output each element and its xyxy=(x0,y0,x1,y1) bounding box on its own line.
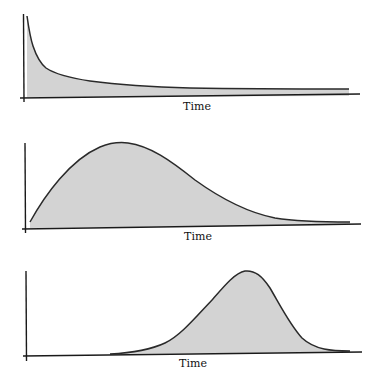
chart-canvas xyxy=(0,0,381,387)
panel-1-y-axis xyxy=(24,14,25,102)
figure: Time Time Time xyxy=(0,0,381,387)
panel-1-curve xyxy=(27,16,349,89)
panel-2-area-fill xyxy=(30,143,350,228)
panel-2-x-axis-label: Time xyxy=(184,230,212,243)
panel-1-x-axis-label: Time xyxy=(183,100,211,113)
panel-3-area-fill xyxy=(110,271,350,354)
panel-1-decay-chart xyxy=(20,14,360,102)
panel-2-early-peak-chart xyxy=(22,143,361,233)
panel-3-y-axis xyxy=(26,271,27,361)
panel-1-area-fill xyxy=(27,16,349,97)
panel-3-late-peak-chart xyxy=(23,271,362,361)
panel-2-y-axis xyxy=(25,143,26,233)
panel-3-x-axis-label: Time xyxy=(179,357,207,370)
